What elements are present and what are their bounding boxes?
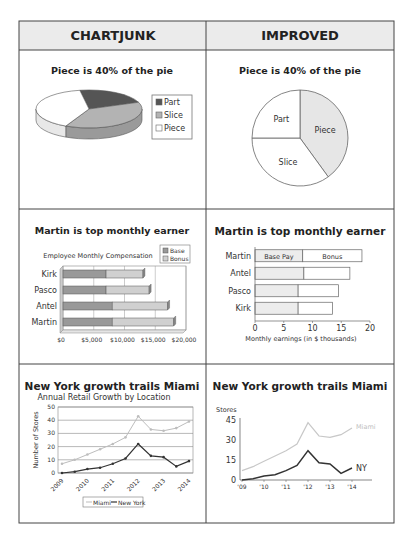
x-tick-label: $10,000 <box>110 336 135 343</box>
data-point <box>124 436 127 439</box>
bar-bonus-pasco <box>298 285 338 297</box>
direct-label-ny: NY <box>356 464 367 473</box>
legend-label-base: Base <box>170 247 185 254</box>
x-tick-label: 2014 <box>176 477 192 493</box>
bar-base-kirk <box>63 270 106 278</box>
x-tick-label: 15 <box>336 324 346 333</box>
data-point <box>112 462 115 465</box>
y-tick-label: 20 <box>47 443 55 450</box>
chartjunk-comparison-figure: CHARTJUNK IMPROVED Piece is 40% of the p… <box>0 0 415 545</box>
bar-bonus-martin <box>112 318 174 326</box>
x-tick-label: '14 <box>347 483 356 490</box>
bar-base-pay-antel <box>255 267 304 279</box>
data-point <box>99 448 102 451</box>
bar-bonus-kirk <box>298 302 333 314</box>
x-tick-label: 2011 <box>100 477 116 493</box>
data-point <box>112 443 115 446</box>
chart-title: Martin is top monthly earner <box>35 225 190 236</box>
x-tick-label: '10 <box>259 483 268 490</box>
data-point <box>73 470 76 473</box>
bar-chart-improved: Martin is top monthly earnerMartinBase P… <box>215 225 387 343</box>
category-label: Kirk <box>42 270 58 279</box>
chart-title: Piece is 40% of the pie <box>239 65 361 76</box>
chart-subtitle: Employee Monthly Compensation <box>43 252 152 260</box>
y-tick-label: 0 <box>51 469 55 476</box>
y-tick-label: 30 <box>47 429 55 436</box>
line-series-miami <box>242 423 352 471</box>
pie-chart-improved: Piece is 40% of the piePieceSlicePart <box>239 65 361 186</box>
x-tick-label: 10 <box>307 324 317 333</box>
chart-subtitle: Annual Retail Growth by Location <box>37 393 170 402</box>
data-point <box>124 457 127 460</box>
legend-swatch-bonus <box>163 256 168 261</box>
data-point <box>162 456 165 459</box>
slice-label-piece: Piece <box>315 126 336 135</box>
pie-chart-chartjunk: Piece is 40% of the piePartSlicePiece <box>36 65 192 139</box>
x-tick-label: $15,000 <box>141 336 166 343</box>
y-axis-label: Number of Stores <box>32 411 40 469</box>
data-point <box>137 415 140 418</box>
x-tick-label: '09 <box>237 483 246 490</box>
data-point <box>175 427 178 430</box>
chart-title: New York growth trails Miami <box>25 380 200 392</box>
bar-base-pay-pasco <box>255 285 298 297</box>
legend-swatch-base <box>163 248 168 253</box>
legend-label-piece: Piece <box>164 124 185 133</box>
legend-label-part: Part <box>164 98 180 107</box>
data-point <box>162 429 165 432</box>
x-tick-label: 2012 <box>125 477 141 493</box>
y-tick-label: 0 <box>231 476 236 485</box>
x-tick-label: '13 <box>325 483 334 490</box>
x-tick-label: $0 <box>57 336 65 343</box>
x-tick-label: 5 <box>281 324 286 333</box>
plot-side-wall <box>60 266 63 333</box>
data-point <box>73 459 76 462</box>
x-tick-label: $20,000 <box>172 336 197 343</box>
legend-swatch-piece <box>156 125 162 131</box>
y-tick-label: 10 <box>47 456 55 463</box>
data-point <box>150 455 153 458</box>
y-tick-label: 45 <box>226 416 236 425</box>
legend-label-miami: Miami <box>93 499 111 506</box>
data-point <box>137 443 140 446</box>
category-label: Kirk <box>236 304 252 313</box>
data-point <box>175 465 178 468</box>
data-point <box>86 468 89 471</box>
x-tick-label: 20 <box>365 324 375 333</box>
x-tick-label: 0 <box>252 324 257 333</box>
x-tick-label: $5,000 <box>81 336 102 343</box>
bar-end-cap <box>168 300 170 310</box>
x-axis-label: Monthly earnings (in $ thousands) <box>245 335 356 343</box>
bar-bonus-antel <box>304 267 350 279</box>
bar-end-cap <box>143 268 145 278</box>
legend-label-slice: Slice <box>164 111 183 120</box>
y-tick-label: 30 <box>226 436 236 445</box>
category-label: Antel <box>230 269 251 278</box>
inline-series-label: Bonus <box>322 253 343 261</box>
category-label: Antel <box>36 302 57 311</box>
x-tick-label: 2013 <box>151 477 167 493</box>
line-chart-chartjunk: New York growth trails MiamiAnnual Retai… <box>25 380 200 507</box>
x-tick-label: '12 <box>303 483 312 490</box>
data-point <box>188 420 191 423</box>
category-label: Pasco <box>34 286 57 295</box>
bar-bonus-antel <box>112 302 167 310</box>
bar-base-pasco <box>63 286 106 294</box>
chart-title: Piece is 40% of the pie <box>51 65 173 76</box>
bar-bonus-kirk <box>106 270 143 278</box>
legend-swatch-part <box>156 99 162 105</box>
bar-base-pay-kirk <box>255 302 298 314</box>
bar-bonus-pasco <box>106 286 149 294</box>
x-tick-label: '11 <box>281 483 290 490</box>
slice-label-part: Part <box>273 115 289 124</box>
legend-swatch-slice <box>156 112 162 118</box>
x-tick-label: 2009 <box>49 477 65 493</box>
y-axis-label: Stores <box>216 406 237 414</box>
legend-label-new-york: New York <box>118 499 146 506</box>
category-label: Martin <box>225 252 251 261</box>
line-series-ny <box>242 451 352 480</box>
legend-label-bonus: Bonus <box>170 255 189 262</box>
direct-label-miami: Miami <box>356 423 376 431</box>
bar-chart-chartjunk: Martin is top monthly earnerEmployee Mon… <box>31 225 196 343</box>
header-chartjunk: CHARTJUNK <box>70 28 156 43</box>
